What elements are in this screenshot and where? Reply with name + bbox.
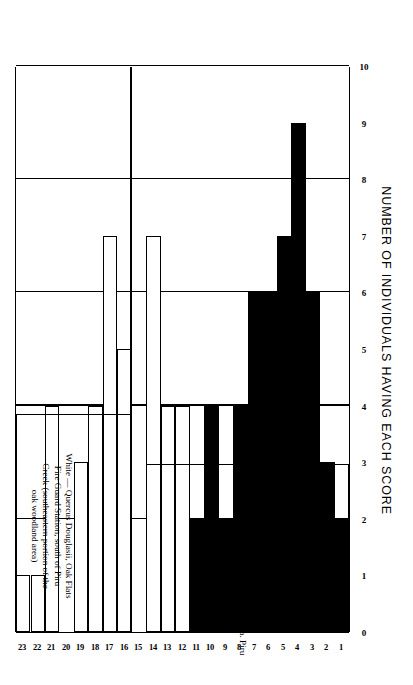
value-tick-8: 8 (355, 175, 373, 185)
value-tick-1: 1 (355, 571, 373, 581)
score-tick-23: 23 (14, 642, 30, 652)
score-tick-5: 5 (275, 642, 291, 652)
score-tick-3: 3 (304, 642, 320, 652)
score-tick-18: 18 (87, 642, 103, 652)
value-tick-0: 0 (355, 628, 373, 638)
score-tick-7: 7 (246, 642, 262, 652)
score-tick-1: 1 (333, 642, 349, 652)
value-tick-6: 6 (355, 288, 373, 298)
score-tick-12: 12 (174, 642, 190, 652)
score-tick-16: 16 (116, 642, 132, 652)
score-tick-21: 21 (43, 642, 59, 652)
value-tick-2: 2 (355, 515, 373, 525)
value-tick-4: 4 (355, 402, 373, 412)
score-tick-22: 22 (29, 642, 45, 652)
score-tick-11: 11 (188, 642, 204, 652)
score-tick-15: 15 (130, 642, 146, 652)
score-tick-17: 17 (101, 642, 117, 652)
score-tick-13: 13 (159, 642, 175, 652)
score-tick-20: 20 (58, 642, 74, 652)
value-tick-3: 3 (355, 458, 373, 468)
score-tick-19: 19 (72, 642, 88, 652)
score-tick-2: 2 (318, 642, 334, 652)
score-tick-6: 6 (260, 642, 276, 652)
score-tick-4: 4 (289, 642, 305, 652)
value-tick-5: 5 (355, 345, 373, 355)
score-tick-14: 14 (145, 642, 161, 652)
white-oak-caption: White — Quercus Douglasii, Oak Flats Fir… (28, 426, 74, 626)
bar-lane-15 (132, 66, 146, 632)
value-tick-7: 7 (355, 232, 373, 242)
figure-canvas: 1234567891011121314151617181920212223 PO… (0, 0, 413, 685)
value-tick-9: 9 (355, 119, 373, 129)
value-tick-10: 10 (355, 62, 373, 72)
value-axis-title: NUMBER OF INDIVIDUALS HAVING EACH SCORE (379, 186, 393, 515)
black-oak-caption: Black — Quercus. The taxon californica. … (213, 476, 247, 666)
